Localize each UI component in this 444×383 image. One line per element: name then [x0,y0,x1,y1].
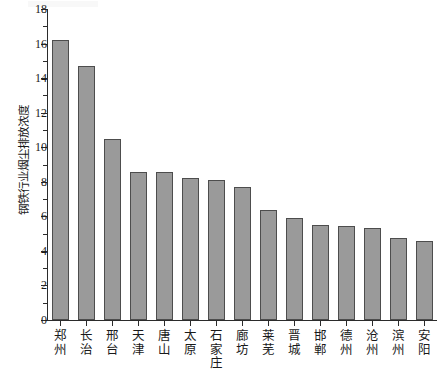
x-axis-label: 廊坊 [235,329,249,356]
x-axis-label: 郑州 [53,329,67,356]
x-tick [242,321,243,326]
bar [390,238,407,320]
y-axis-ticks: 024681012141618 [0,0,47,383]
x-tick [112,321,113,326]
x-axis-label: 安阳 [417,329,431,356]
x-axis-label: 莱芜 [261,329,275,356]
x-tick [86,321,87,326]
bar [78,66,95,320]
x-tick [138,321,139,326]
x-tick [268,321,269,326]
x-axis-labels: 郑州长治邢台天津唐山太原石家庄廊坊莱芜晋城邯郸德州沧州滨州安阳 [47,329,437,383]
bar [234,187,251,320]
bar [208,180,225,320]
bar [104,139,121,320]
bar [52,40,69,320]
y-tick-label: 16 [11,38,47,50]
x-axis-label: 太原 [183,329,197,356]
bar [416,241,433,320]
bar [260,210,277,320]
y-tick-label: 2 [11,279,47,291]
x-tick [320,321,321,326]
x-axis-label: 德州 [339,329,353,356]
bar [286,218,303,320]
x-tick [216,321,217,326]
x-tick [398,321,399,326]
y-tick-label: 10 [11,141,47,153]
x-axis-label: 长治 [79,329,93,356]
x-axis-label: 邢台 [105,329,119,356]
bars-container [47,9,437,320]
x-axis-label: 石家庄 [209,329,223,370]
bar [182,178,199,320]
x-axis-label: 天津 [131,329,145,356]
bar [130,172,147,320]
bar [312,225,329,320]
bar-chart: 钢铁行业烟尘排放浓度 024681012141618 郑州长治邢台天津唐山太原石… [0,0,444,383]
y-tick-label: 6 [11,210,47,222]
x-tick [424,321,425,326]
y-tick-label: 8 [11,176,47,188]
x-axis-label: 滨州 [391,329,405,356]
x-axis-label: 晋城 [287,329,301,356]
bar [338,226,355,320]
x-tick [372,321,373,326]
y-tick-label: 14 [11,72,47,84]
x-axis-label: 邯郸 [313,329,327,356]
y-tick-label: 12 [11,107,47,119]
x-tick [346,321,347,326]
x-tick [164,321,165,326]
y-tick-label: 18 [11,3,47,15]
y-tick-label: 4 [11,245,47,257]
y-tick-label: 0 [11,314,47,326]
x-axis-label: 沧州 [365,329,379,356]
bar [156,172,173,320]
x-tick [294,321,295,326]
x-axis-label: 唐山 [157,329,171,356]
x-tick [60,321,61,326]
bar [364,228,381,320]
x-tick [190,321,191,326]
